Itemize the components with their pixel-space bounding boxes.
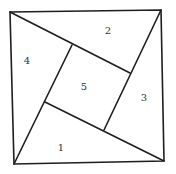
- segment-topright-to-inner-bottom: [104, 10, 161, 130]
- region-label-2: 2: [105, 25, 111, 36]
- pinwheel-diagram: 1 2 3 4 5: [0, 0, 176, 174]
- region-label-1: 1: [58, 142, 64, 153]
- region-label-5: 5: [81, 81, 87, 92]
- region-label-3: 3: [141, 92, 147, 103]
- region-label-4: 4: [24, 55, 30, 66]
